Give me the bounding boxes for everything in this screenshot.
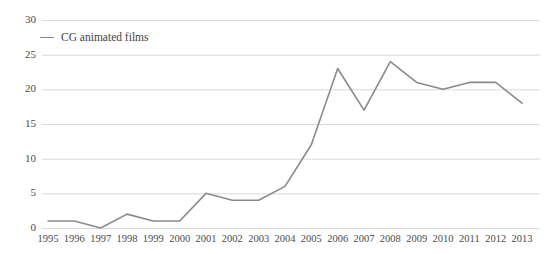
line-chart: 051015202530 199519961997199819992000200…	[0, 0, 556, 254]
legend-entry-label: CG animated films	[61, 32, 149, 44]
legend-line-swatch-icon	[40, 37, 54, 38]
x-axis-tick-label: 2013	[502, 234, 542, 245]
chart-legend: CG animated films	[40, 32, 149, 44]
